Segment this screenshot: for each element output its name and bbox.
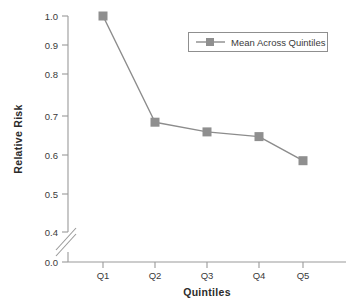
chart-container: 1.0 0.9 0.8 0.7 0.6 0.5 0.4 0.0 Relative… — [0, 0, 360, 303]
y-tick-label-0-8: 0.8 — [45, 69, 58, 80]
legend-marker-swatch — [206, 38, 214, 46]
y-tick-label-0-5: 0.5 — [45, 189, 58, 200]
x-tick-label-q3: Q3 — [201, 270, 214, 281]
legend-label: Mean Across Quintiles — [231, 37, 326, 48]
data-point-q1[interactable] — [99, 12, 108, 21]
relative-risk-line-chart: 1.0 0.9 0.8 0.7 0.6 0.5 0.4 0.0 Relative… — [0, 0, 360, 303]
y-axis-title: Relative Risk — [12, 104, 24, 173]
y-tick-label-0-0: 0.0 — [45, 257, 58, 268]
x-tick-label-q1: Q1 — [97, 270, 110, 281]
x-axis-title: Quintiles — [183, 286, 231, 298]
data-point-q4[interactable] — [255, 132, 264, 141]
data-point-q2[interactable] — [151, 118, 160, 127]
y-tick-label-0-9: 0.9 — [45, 40, 58, 51]
y-tick-label-0-6: 0.6 — [45, 150, 58, 161]
y-tick-label-0-7: 0.7 — [45, 111, 58, 122]
x-tick-label-q2: Q2 — [149, 270, 162, 281]
data-point-q5[interactable] — [299, 156, 308, 165]
x-tick-label-q5: Q5 — [297, 270, 310, 281]
legend[interactable]: Mean Across Quintiles — [189, 33, 328, 52]
y-tick-label-1-0: 1.0 — [45, 11, 58, 22]
y-tick-label-0-4: 0.4 — [45, 227, 58, 238]
x-tick-label-q4: Q4 — [253, 270, 266, 281]
data-point-q3[interactable] — [203, 127, 212, 136]
